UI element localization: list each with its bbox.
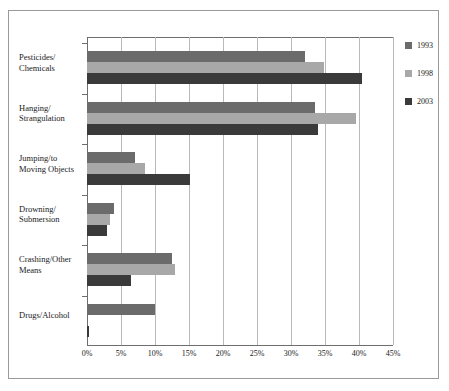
category-label: Drugs/Alcohol (19, 310, 85, 321)
legend-item-2003: 2003 (405, 97, 433, 106)
bar-2003 (87, 174, 190, 185)
bar-2003 (87, 124, 318, 135)
bar-1993 (87, 102, 315, 113)
legend-item-1993: 1993 (405, 41, 433, 50)
bar-1993 (87, 253, 172, 264)
legend-label: 2003 (417, 97, 433, 106)
bar-1993 (87, 203, 114, 214)
bar-1998 (87, 163, 145, 174)
category-label-line1: Crashing/Other (19, 254, 85, 265)
category-label-line1: Pesticides/ (19, 52, 85, 63)
bar-2003 (87, 275, 131, 286)
category-label-line2: Submersion (19, 214, 85, 225)
y-axis-tick (82, 195, 87, 196)
bar-1998 (87, 62, 324, 73)
bar-1993 (87, 304, 155, 315)
bar-group (87, 253, 393, 286)
legend-label: 1998 (417, 69, 433, 78)
bar-group (87, 102, 393, 135)
bar-1998 (87, 113, 356, 124)
category-label-line2: Moving Objects (19, 164, 85, 175)
legend-swatch-icon (405, 98, 412, 105)
bar-1998 (87, 214, 110, 225)
x-axis-tick-label: 45% (373, 349, 413, 358)
category-label-line2: Chemicals (19, 63, 85, 74)
bar-1993 (87, 152, 135, 163)
bar-group (87, 304, 393, 337)
gridline-45 (393, 37, 394, 345)
legend-swatch-icon (405, 42, 412, 49)
bar-1998 (87, 264, 175, 275)
y-axis-tick (82, 296, 87, 297)
category-label-line1: Jumping/to (19, 153, 85, 164)
bar-2003 (87, 73, 362, 84)
y-axis-tick (82, 94, 87, 95)
category-label: Jumping/toMoving Objects (19, 153, 85, 174)
bar-group (87, 152, 393, 185)
y-axis-tick (82, 43, 87, 44)
category-label-line2: Strangulation (19, 113, 85, 124)
bar-group (87, 203, 393, 236)
chart-frame: Pesticides/ChemicalsHanging/Strangulatio… (8, 10, 439, 379)
legend-swatch-icon (405, 70, 412, 77)
category-label-line1: Hanging/ (19, 103, 85, 114)
category-label-line1: Drugs/Alcohol (19, 310, 85, 321)
category-label: Hanging/Strangulation (19, 103, 85, 124)
y-axis-tick (82, 144, 87, 145)
bar-2003 (87, 326, 89, 337)
category-label: Crashing/OtherMeans (19, 254, 85, 275)
y-axis-tick (82, 245, 87, 246)
category-label: Drowning/Submersion (19, 204, 85, 225)
category-label-line2: Means (19, 265, 85, 276)
bar-group (87, 51, 393, 84)
bar-1993 (87, 51, 305, 62)
category-label-line1: Drowning/ (19, 204, 85, 215)
bar-2003 (87, 225, 107, 236)
plot-area (87, 37, 393, 345)
category-label: Pesticides/Chemicals (19, 52, 85, 73)
legend-item-1998: 1998 (405, 69, 433, 78)
legend-label: 1993 (417, 41, 433, 50)
axis-bottom-rule (87, 345, 393, 346)
